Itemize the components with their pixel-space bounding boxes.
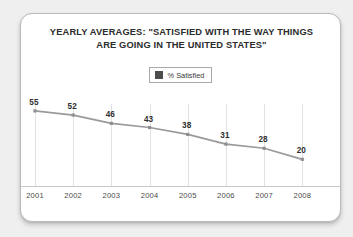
x-tick-label: 2008 bbox=[293, 191, 311, 200]
data-point-marker bbox=[110, 122, 113, 125]
x-tick-label: 2003 bbox=[103, 191, 121, 200]
x-tick-label: 2005 bbox=[179, 191, 197, 200]
x-tick-label: 2004 bbox=[141, 191, 159, 200]
data-point-label: 55 bbox=[29, 98, 38, 107]
data-point-label: 43 bbox=[144, 115, 153, 124]
data-point-label: 31 bbox=[220, 131, 229, 140]
data-point-marker bbox=[301, 158, 304, 161]
legend-series-label: % Satisfied bbox=[168, 71, 205, 80]
data-point-marker bbox=[263, 147, 266, 150]
data-point-marker bbox=[224, 143, 227, 146]
data-point-label: 52 bbox=[68, 102, 77, 111]
x-tick-label: 2001 bbox=[26, 191, 44, 200]
x-tick-label: 2007 bbox=[255, 191, 273, 200]
x-axis-tick-labels: 20012002200320042005200620072008 bbox=[34, 191, 325, 203]
data-point-label: 46 bbox=[106, 110, 115, 119]
chart-title-line-2: ARE GOING IN THE UNITED STATES" bbox=[29, 39, 334, 52]
data-point-label: 28 bbox=[258, 135, 267, 144]
data-point-marker bbox=[33, 109, 36, 112]
x-tick-label: 2006 bbox=[217, 191, 235, 200]
series-line-chart bbox=[34, 104, 325, 187]
chart-title-line-1: YEARLY AVERAGES: "SATISFIED WITH THE WAY… bbox=[29, 26, 334, 39]
x-tick-label: 2002 bbox=[64, 191, 82, 200]
data-point-marker bbox=[186, 133, 189, 136]
data-point-label: 20 bbox=[297, 146, 306, 155]
data-point-marker bbox=[148, 126, 151, 129]
square-swatch-icon bbox=[155, 71, 163, 79]
chart-legend: % Satisfied bbox=[149, 67, 213, 83]
data-point-marker bbox=[72, 113, 75, 116]
data-point-label: 38 bbox=[182, 121, 191, 130]
chart-title: YEARLY AVERAGES: "SATISFIED WITH THE WAY… bbox=[29, 26, 334, 51]
chart-card: YEARLY AVERAGES: "SATISFIED WITH THE WAY… bbox=[20, 13, 341, 222]
plot-area: 5552464338312820 bbox=[34, 104, 325, 187]
